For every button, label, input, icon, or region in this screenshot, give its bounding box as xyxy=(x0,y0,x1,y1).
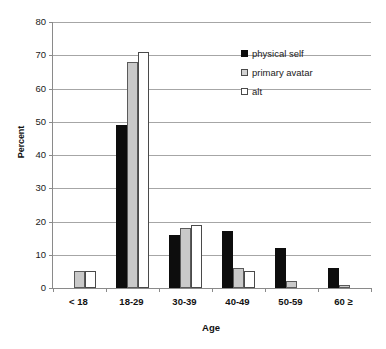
x-axis-tick-mark xyxy=(159,288,160,292)
bar xyxy=(169,235,180,288)
x-axis-tick-mark xyxy=(53,288,54,292)
legend-item-label: alt xyxy=(252,86,262,97)
y-axis-tick-label: 30 xyxy=(16,183,46,193)
chart-legend: physical selfprimary avataralt xyxy=(241,44,371,101)
black-square-icon xyxy=(241,50,248,57)
y-axis-tick-label: 0 xyxy=(16,283,46,293)
x-axis-tick-label: 18-29 xyxy=(105,296,158,307)
bar xyxy=(328,268,339,288)
bar xyxy=(138,52,149,288)
bar xyxy=(116,125,127,288)
bar xyxy=(127,62,138,288)
y-axis-tick-label: 70 xyxy=(16,50,46,60)
bar xyxy=(339,285,350,288)
y-axis-tick-labels: 01020304050607080 xyxy=(12,0,46,349)
bar xyxy=(286,281,297,288)
bar-group xyxy=(53,22,106,288)
legend-item: primary avatar xyxy=(241,63,371,82)
x-axis-tick-mark xyxy=(318,288,319,292)
y-axis-tick-label: 20 xyxy=(16,217,46,227)
y-axis-tick-label: 80 xyxy=(16,17,46,27)
bar xyxy=(222,231,233,288)
bar-chart: Percent 01020304050607080 < 1818-2930-39… xyxy=(0,0,386,349)
bar xyxy=(74,271,85,288)
bar xyxy=(233,268,244,288)
bar xyxy=(85,271,96,288)
y-axis-tick-label: 40 xyxy=(16,150,46,160)
x-axis-tick-label: 60 ≥ xyxy=(317,296,370,307)
bar xyxy=(275,248,286,288)
bar-group xyxy=(159,22,212,288)
gray-square-icon xyxy=(241,69,248,76)
x-axis-tick-mark xyxy=(106,288,107,292)
x-axis-tick-label: 40-49 xyxy=(211,296,264,307)
x-axis-tick-label: 50-59 xyxy=(264,296,317,307)
y-axis-tick-label: 50 xyxy=(16,117,46,127)
x-axis-title: Age xyxy=(52,322,370,333)
y-axis-tick-label: 60 xyxy=(16,84,46,94)
white-square-icon xyxy=(241,88,248,95)
x-axis-tick-label: 30-39 xyxy=(158,296,211,307)
bar-group xyxy=(106,22,159,288)
legend-item: physical self xyxy=(241,44,371,63)
legend-item: alt xyxy=(241,82,371,101)
legend-item-label: primary avatar xyxy=(252,67,313,78)
bar xyxy=(244,271,255,288)
bar xyxy=(180,228,191,288)
x-axis-tick-label: < 18 xyxy=(52,296,105,307)
x-axis-tick-mark xyxy=(212,288,213,292)
bar xyxy=(191,225,202,288)
legend-item-label: physical self xyxy=(252,48,304,59)
y-axis-tick-label: 10 xyxy=(16,250,46,260)
x-axis-tick-mark xyxy=(371,288,372,292)
x-axis-tick-mark xyxy=(265,288,266,292)
